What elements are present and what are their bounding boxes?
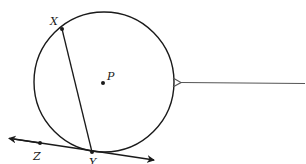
tangent-line-zy-left-arrow	[9, 138, 40, 143]
point-x	[60, 27, 64, 31]
pointer-arrow	[181, 83, 305, 84]
chord-xy	[62, 29, 92, 152]
label-z: Z	[32, 150, 41, 163]
point-z	[38, 141, 42, 145]
point-p	[101, 81, 105, 85]
label-x: X	[49, 15, 59, 28]
label-p: P	[106, 70, 115, 83]
point-y	[90, 150, 94, 154]
label-y: Y	[89, 156, 98, 164]
geometry-diagram: X P Z Y	[0, 0, 306, 164]
